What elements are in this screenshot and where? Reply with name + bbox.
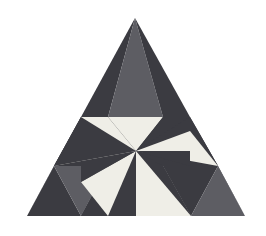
geometric-triangle-figure: [0, 0, 266, 236]
artboard: An abstract grey and cream geometric fig…: [0, 0, 266, 236]
